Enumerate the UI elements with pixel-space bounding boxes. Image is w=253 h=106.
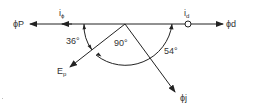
phi-p-label: ϕP [13,19,24,29]
i-phi-sub: ϕ [61,13,65,19]
e-p-sub: p [63,71,67,77]
angle-54-label: 54° [164,46,178,56]
phi-d-label: ϕd [226,19,236,29]
e-p-label: Ep [57,66,67,77]
phasor-diagram: ϕP iϕ id ϕd Ep ϕj 36° 90° 54° [0,0,253,106]
i-phi-label: iϕ [59,8,65,19]
angle-36-arrow-bottom [88,45,93,51]
i-d-label: id [184,8,189,19]
angle-36-arrow-top [83,24,87,30]
angle-36-label: 36° [66,36,80,46]
angle-90-label: 90° [114,38,128,48]
angle-144-arc [96,24,172,65]
artifact-dot [2,98,3,99]
arc-arrow-end [169,24,174,30]
i-d-sub: d [186,13,189,19]
i-d-circle-marker [185,21,191,27]
phi-j-label: ϕj [180,93,187,103]
